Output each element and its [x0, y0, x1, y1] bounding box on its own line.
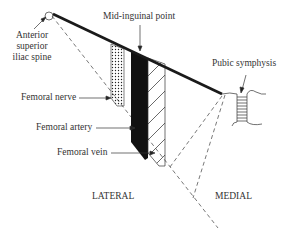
label-asis-line3: iliac spine	[2, 52, 62, 63]
femoral-artery-shape	[131, 51, 148, 160]
label-asis-line1: Anterior	[2, 30, 62, 41]
femoral-vein-shape	[148, 58, 165, 166]
pubic-symphysis-icon	[222, 90, 266, 126]
label-medial: MEDIAL	[215, 191, 252, 202]
label-asis-line2: superior	[2, 41, 62, 52]
femoral-triangle-diagram: Anterior superior iliac spine Mid-inguin…	[0, 0, 284, 236]
label-lateral: LATERAL	[92, 191, 134, 202]
label-femoral-nerve: Femoral nerve	[21, 92, 76, 103]
label-asis: Anterior superior iliac spine	[2, 30, 62, 63]
femoral-nerve-shape	[111, 44, 124, 106]
label-pubic-symphysis: Pubic symphysis	[212, 58, 276, 69]
label-mid-inguinal-point: Mid-inguinal point	[103, 11, 175, 22]
label-femoral-artery: Femoral artery	[36, 122, 92, 133]
label-femoral-vein: Femoral vein	[57, 147, 107, 158]
asis-marker-icon	[45, 12, 53, 20]
